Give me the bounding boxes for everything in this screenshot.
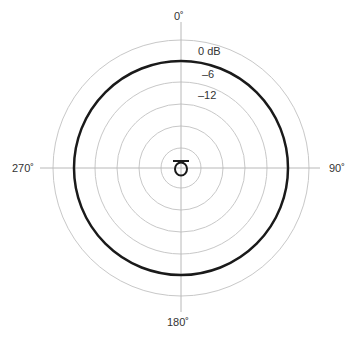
angle-label-90: 90˚: [329, 162, 345, 174]
db-label-0: 0 dB: [198, 45, 221, 57]
angle-label-180: 180˚: [167, 316, 189, 328]
polar-diagram: [0, 0, 350, 338]
angle-label-270: 270˚: [12, 162, 34, 174]
angle-label-0: 0˚: [174, 10, 184, 22]
db-label-12: –12: [198, 89, 216, 101]
db-label-6: –6: [202, 68, 214, 80]
axis-lines: [40, 22, 320, 312]
